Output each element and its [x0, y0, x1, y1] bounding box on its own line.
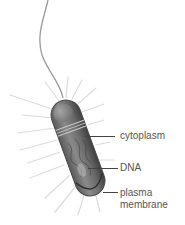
dna-leader — [88, 168, 118, 169]
bacterium-illustration — [0, 0, 185, 225]
label-plasma-membrane-line1: plasma — [120, 187, 152, 198]
flagellum — [40, 0, 63, 98]
label-plasma-membrane-line2: membrane — [120, 199, 168, 210]
cytoplasm-leader — [85, 136, 115, 137]
label-dna: DNA — [120, 162, 141, 173]
plasma-membrane-leader — [103, 192, 118, 193]
cell-body — [47, 96, 109, 200]
label-cytoplasm: cytoplasm — [120, 130, 165, 141]
